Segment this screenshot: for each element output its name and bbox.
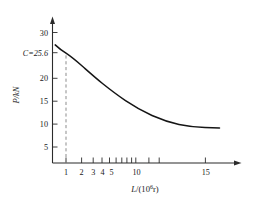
x-axis-title-unit: r) — [153, 184, 159, 194]
c-value-annotation: C=25.6 — [23, 49, 49, 58]
y-tick-marks — [53, 33, 58, 148]
x-tick-label-4: 4 — [101, 168, 105, 177]
chart-canvas: 5 10 15 20 30 C=25.6 1 2 3 4 5 10 15 L/(… — [0, 0, 255, 203]
x-tick-label-5: 5 — [109, 168, 113, 177]
y-tick-label-30: 30 — [40, 29, 48, 38]
y-tick-label-10: 10 — [40, 120, 48, 129]
y-axis-group — [50, 17, 55, 164]
x-tick-label-15: 15 — [202, 168, 210, 177]
x-axis-title: L/(106r) — [130, 184, 158, 194]
chart-figure: 5 10 15 20 30 C=25.6 1 2 3 4 5 10 15 L/(… — [0, 0, 255, 203]
x-tick-marks — [66, 158, 205, 164]
x-axis-title-slash: /(10 — [136, 184, 150, 194]
x-tick-labels: 1 2 3 4 5 10 15 — [64, 168, 210, 177]
x-tick-label-3: 3 — [91, 168, 95, 177]
x-tick-label-10: 10 — [132, 168, 140, 177]
x-tick-label-1: 1 — [64, 168, 68, 177]
c-annotation-label: C=25.6 — [23, 49, 49, 58]
x-tick-label-2: 2 — [80, 168, 84, 177]
y-tick-label-15: 15 — [40, 97, 48, 106]
y-tick-labels: 5 10 15 20 30 — [40, 29, 48, 153]
x-axis-title-group: L/(106r) — [130, 184, 158, 194]
load-life-curve — [55, 45, 219, 128]
y-axis-title: P/kN — [11, 85, 21, 104]
x-axis-group — [53, 161, 242, 166]
y-tick-label-20: 20 — [40, 74, 48, 83]
y-axis-title-group: P/kN — [11, 85, 21, 104]
y-tick-label-5: 5 — [44, 143, 48, 152]
y-axis-arrow-icon — [50, 17, 55, 25]
x-axis-arrow-icon — [234, 161, 242, 166]
